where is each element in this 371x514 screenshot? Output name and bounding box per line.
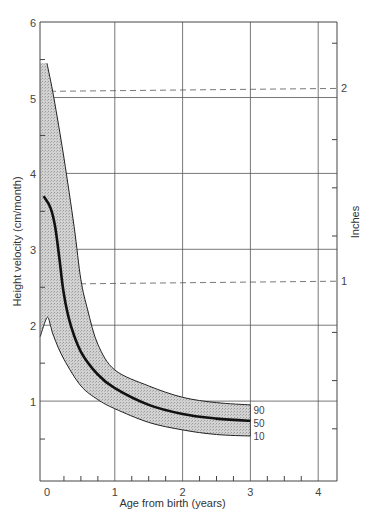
inch-line-1 — [40, 281, 337, 284]
inch-line-2 — [40, 88, 337, 91]
inch-tick-label: 2 — [341, 82, 347, 94]
right-axis-title: Inches — [349, 205, 361, 238]
y-tick-label: 3 — [30, 244, 36, 256]
x-tick-label: 0 — [44, 486, 50, 498]
inch-tick-label: 1 — [341, 275, 347, 287]
percentile-label-10: 10 — [253, 431, 265, 442]
x-tick-label: 3 — [247, 486, 253, 498]
y-tick-label: 5 — [30, 93, 36, 105]
inch-reference-lines — [40, 88, 337, 284]
x-tick-label: 1 — [112, 486, 118, 498]
y-tick-label: 6 — [30, 17, 36, 29]
y-tick-label: 2 — [30, 320, 36, 332]
x-tick-label: 4 — [315, 486, 321, 498]
percentile-label-90: 90 — [253, 405, 265, 416]
x-axis-title: Age from birth (years) — [119, 497, 225, 509]
y-axis-title: Height velocity (cm/month) — [11, 176, 23, 306]
y-tick-label: 4 — [30, 168, 36, 180]
height-velocity-chart: 1234560123412905010Age from birth (years… — [0, 0, 371, 514]
y-tick-label: 1 — [30, 396, 36, 408]
percentile-label-50: 50 — [253, 418, 265, 429]
